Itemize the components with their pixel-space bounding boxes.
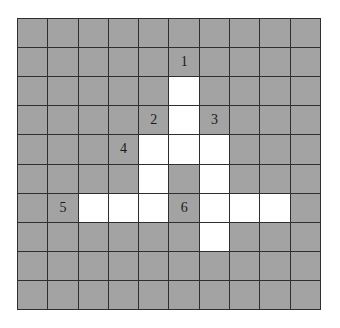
grid-cell-gray[interactable] bbox=[109, 48, 138, 76]
grid-cell-gray[interactable] bbox=[109, 165, 138, 193]
grid-cell-gray[interactable] bbox=[18, 19, 47, 47]
grid-cell-gray[interactable] bbox=[18, 48, 47, 76]
grid-cell-gray[interactable] bbox=[169, 223, 198, 251]
grid-cell-gray[interactable] bbox=[230, 135, 259, 163]
grid-cell-gray[interactable] bbox=[200, 77, 229, 105]
grid-cell-white[interactable] bbox=[169, 106, 198, 134]
grid-cell-gray[interactable]: 5 bbox=[48, 194, 77, 222]
grid-cell-gray[interactable] bbox=[169, 252, 198, 280]
grid-cell-gray[interactable] bbox=[48, 165, 77, 193]
grid-cell-gray[interactable] bbox=[291, 135, 320, 163]
grid-cell-gray[interactable] bbox=[230, 106, 259, 134]
grid-cell-gray[interactable] bbox=[291, 281, 320, 309]
grid-cell-white[interactable] bbox=[169, 135, 198, 163]
grid-cell-gray[interactable] bbox=[291, 165, 320, 193]
grid-cell-gray[interactable] bbox=[18, 194, 47, 222]
grid-cell-gray[interactable] bbox=[48, 281, 77, 309]
grid-cell-gray[interactable] bbox=[139, 77, 168, 105]
grid-cell-gray[interactable] bbox=[109, 252, 138, 280]
grid-cell-gray[interactable] bbox=[79, 77, 108, 105]
grid-cell-gray[interactable] bbox=[260, 281, 289, 309]
grid-cell-gray[interactable] bbox=[291, 223, 320, 251]
grid-cell-gray[interactable] bbox=[109, 106, 138, 134]
grid-cell-white[interactable] bbox=[260, 194, 289, 222]
grid-cell-gray[interactable] bbox=[139, 48, 168, 76]
grid-cell-gray[interactable] bbox=[18, 281, 47, 309]
grid-cell-gray[interactable] bbox=[260, 48, 289, 76]
grid-cell-gray[interactable] bbox=[109, 223, 138, 251]
grid-cell-gray[interactable] bbox=[79, 252, 108, 280]
grid-cell-gray[interactable] bbox=[79, 135, 108, 163]
grid-cell-gray[interactable] bbox=[169, 281, 198, 309]
grid-cell-gray[interactable]: 6 bbox=[169, 194, 198, 222]
grid-cell-white[interactable] bbox=[79, 194, 108, 222]
grid-cell-gray[interactable] bbox=[230, 281, 259, 309]
grid-cell-gray[interactable] bbox=[200, 281, 229, 309]
grid-cell-gray[interactable] bbox=[79, 223, 108, 251]
grid-cell-gray[interactable] bbox=[109, 19, 138, 47]
grid-cell-white[interactable] bbox=[200, 135, 229, 163]
grid-cell-gray[interactable] bbox=[260, 165, 289, 193]
grid-cell-gray[interactable] bbox=[79, 281, 108, 309]
grid-cell-gray[interactable] bbox=[291, 77, 320, 105]
grid-cell-gray[interactable] bbox=[230, 77, 259, 105]
grid-cell-gray[interactable] bbox=[200, 48, 229, 76]
grid-cell-gray[interactable] bbox=[79, 48, 108, 76]
grid-cell-gray[interactable] bbox=[291, 48, 320, 76]
grid-cell-gray[interactable] bbox=[291, 106, 320, 134]
grid-cell-gray[interactable] bbox=[48, 252, 77, 280]
grid-cell-gray[interactable] bbox=[260, 135, 289, 163]
grid-cell-gray[interactable] bbox=[79, 106, 108, 134]
grid-cell-gray[interactable] bbox=[230, 48, 259, 76]
grid-cell-white[interactable] bbox=[169, 77, 198, 105]
grid-cell-gray[interactable] bbox=[260, 106, 289, 134]
grid-cell-white[interactable] bbox=[230, 194, 259, 222]
grid-cell-white[interactable] bbox=[200, 165, 229, 193]
grid-cell-gray[interactable] bbox=[18, 77, 47, 105]
grid-cell-gray[interactable] bbox=[200, 252, 229, 280]
grid-cell-gray[interactable] bbox=[169, 19, 198, 47]
grid-cell-gray[interactable] bbox=[260, 77, 289, 105]
grid-cell-white[interactable] bbox=[139, 165, 168, 193]
grid-cell-gray[interactable] bbox=[139, 281, 168, 309]
grid-cell-gray[interactable] bbox=[79, 165, 108, 193]
grid-cell-gray[interactable] bbox=[230, 165, 259, 193]
grid-cell-gray[interactable] bbox=[18, 252, 47, 280]
grid-cell-gray[interactable] bbox=[109, 77, 138, 105]
grid-cell-gray[interactable] bbox=[291, 19, 320, 47]
grid-cell-gray[interactable] bbox=[18, 106, 47, 134]
grid-cell-gray[interactable] bbox=[260, 223, 289, 251]
grid-cell-white[interactable] bbox=[139, 194, 168, 222]
grid-cell-gray[interactable] bbox=[169, 165, 198, 193]
grid-cell-gray[interactable] bbox=[18, 135, 47, 163]
grid-cell-gray[interactable] bbox=[109, 281, 138, 309]
grid-cell-gray[interactable] bbox=[18, 223, 47, 251]
grid-cell-gray[interactable] bbox=[48, 19, 77, 47]
grid-cell-gray[interactable] bbox=[200, 19, 229, 47]
grid-cell-gray[interactable] bbox=[139, 252, 168, 280]
grid-cell-gray[interactable]: 4 bbox=[109, 135, 138, 163]
grid-cell-gray[interactable] bbox=[139, 223, 168, 251]
grid-cell-gray[interactable] bbox=[291, 194, 320, 222]
grid-cell-gray[interactable] bbox=[260, 19, 289, 47]
grid-cell-gray[interactable] bbox=[48, 223, 77, 251]
grid-cell-white[interactable] bbox=[200, 194, 229, 222]
grid-cell-gray[interactable] bbox=[230, 252, 259, 280]
grid-cell-gray[interactable] bbox=[139, 19, 168, 47]
grid-cell-gray[interactable] bbox=[48, 48, 77, 76]
grid-cell-gray[interactable]: 3 bbox=[200, 106, 229, 134]
grid-cell-gray[interactable] bbox=[230, 19, 259, 47]
grid-cell-gray[interactable] bbox=[260, 252, 289, 280]
grid-cell-gray[interactable]: 1 bbox=[169, 48, 198, 76]
grid-cell-gray[interactable]: 2 bbox=[139, 106, 168, 134]
grid-cell-gray[interactable] bbox=[18, 165, 47, 193]
grid-cell-white[interactable] bbox=[139, 135, 168, 163]
grid-cell-gray[interactable] bbox=[48, 106, 77, 134]
grid-cell-white[interactable] bbox=[109, 194, 138, 222]
grid-cell-white[interactable] bbox=[200, 223, 229, 251]
grid-cell-gray[interactable] bbox=[291, 252, 320, 280]
grid-cell-gray[interactable] bbox=[48, 77, 77, 105]
grid-cell-gray[interactable] bbox=[230, 223, 259, 251]
grid-cell-gray[interactable] bbox=[79, 19, 108, 47]
grid-cell-gray[interactable] bbox=[48, 135, 77, 163]
